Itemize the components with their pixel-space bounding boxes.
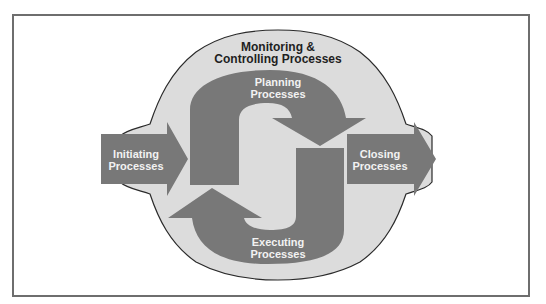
planning-label-line2: Processes — [236, 88, 320, 100]
initiating-label: Initiating Processes — [104, 148, 168, 172]
closing-label-line2: Processes — [348, 160, 412, 172]
planning-label-line1: Planning — [236, 76, 320, 88]
monitoring-controlling-label: Monitoring & Controlling Processes — [200, 41, 356, 65]
planning-label: Planning Processes — [236, 76, 320, 100]
initiating-label-line1: Initiating — [104, 148, 168, 160]
monitoring-controlling-label-line2: Controlling Processes — [200, 53, 356, 65]
closing-label: Closing Processes — [348, 148, 412, 172]
executing-label: Executing Processes — [236, 236, 320, 260]
closing-label-line1: Closing — [348, 148, 412, 160]
executing-label-line1: Executing — [236, 236, 320, 248]
executing-label-line2: Processes — [236, 248, 320, 260]
initiating-label-line2: Processes — [104, 160, 168, 172]
